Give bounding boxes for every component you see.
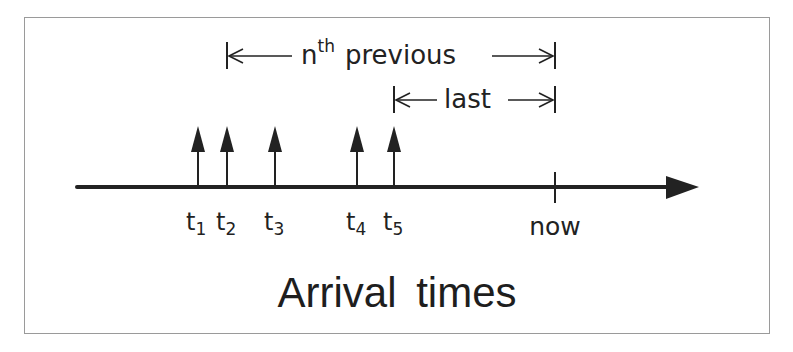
up-arrow-icon <box>268 126 282 152</box>
arrival-arrow-t1 <box>191 126 205 187</box>
up-arrow-icon <box>220 126 234 152</box>
arrival-arrow-t2 <box>220 126 234 187</box>
arrival-label-t3: t3 <box>264 208 284 239</box>
arrival-arrow-t5 <box>387 126 401 187</box>
arrival-label-t1: t1 <box>186 208 206 239</box>
arrival-times-diagram: now t1 t2 t3 t4 t5 <box>0 0 793 352</box>
arrival-label-t2: t2 <box>216 208 236 239</box>
axis-arrowhead-icon <box>666 176 699 199</box>
up-arrow-icon <box>350 126 364 152</box>
now-label: now <box>529 212 581 241</box>
diagram-title: Arrival times <box>277 269 516 316</box>
arrival-labels: t1 t2 t3 t4 t5 <box>186 208 403 239</box>
up-arrow-icon <box>387 126 401 152</box>
interval-label-nth-previous: nthprevious <box>301 36 456 70</box>
interval-label-last: last <box>444 84 491 114</box>
arrival-label-t4: t4 <box>346 208 366 239</box>
arrival-label-t5: t5 <box>383 208 403 239</box>
arrival-arrow-t3 <box>268 126 282 187</box>
arrival-arrows <box>191 126 401 187</box>
interval-last: last <box>394 84 555 114</box>
arrival-arrow-t4 <box>350 126 364 187</box>
interval-nth-previous: nthprevious <box>227 36 555 70</box>
up-arrow-icon <box>191 126 205 152</box>
